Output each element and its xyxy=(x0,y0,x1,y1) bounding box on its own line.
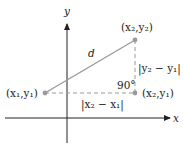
point-x2-y2 xyxy=(133,38,138,43)
x-axis-label: x xyxy=(173,112,179,124)
label-vertical-diff: |y₂ − y₁| xyxy=(138,62,181,76)
label-x1-y1: (x₁,y₁) xyxy=(6,87,38,99)
distance-formula-diagram: x y (x₁,y₁) (x₂,y₂) (x₂,y₁) d |y₂ − y₁| … xyxy=(0,0,185,150)
label-x2-y1: (x₂,y₁) xyxy=(142,87,174,99)
point-x2-y1 xyxy=(133,91,138,96)
y-axis-label: y xyxy=(63,5,71,17)
label-horizontal-diff: |x₂ − x₁| xyxy=(81,98,124,112)
label-right-angle: 90° xyxy=(117,79,136,91)
label-d: d xyxy=(88,47,95,59)
point-x1-y1 xyxy=(43,91,48,96)
label-x2-y2: (x₂,y₂) xyxy=(121,21,153,33)
